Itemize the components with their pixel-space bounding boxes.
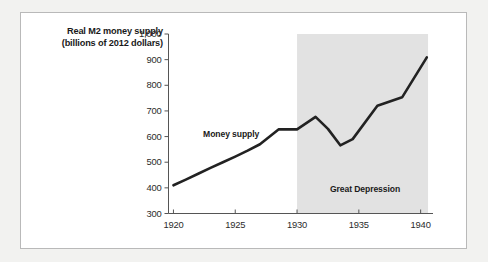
y-axis-tick-label: 800 xyxy=(122,79,162,90)
y-axis-tick-label: 900 xyxy=(122,54,162,65)
y-axis-tick-label: 400 xyxy=(122,182,162,193)
chart-figure: Real M2 money supply (billions of 2012 d… xyxy=(20,12,467,249)
x-axis-tick-label: 1930 xyxy=(277,219,317,230)
y-axis-tick-label: 700 xyxy=(122,105,162,116)
region-label: Great Depression xyxy=(330,184,400,194)
y-axis-tick-label: 500 xyxy=(122,156,162,167)
y-axis-tick-marks xyxy=(165,34,169,214)
y-axis-tick-label: 600 xyxy=(122,131,162,142)
x-axis-tick-label: 1925 xyxy=(215,219,255,230)
x-axis-tick-label: 1940 xyxy=(401,219,441,230)
y-axis-tick-label: 300 xyxy=(122,208,162,219)
x-axis-tick-label: 1920 xyxy=(153,219,193,230)
series-label: Money supply xyxy=(203,129,259,139)
y-axis-tick-label: 1,000 xyxy=(122,28,162,39)
x-axis-tick-label: 1935 xyxy=(339,219,379,230)
